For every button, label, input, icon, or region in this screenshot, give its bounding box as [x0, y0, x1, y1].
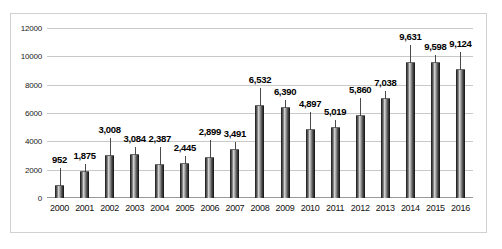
bar-2015[interactable]: [431, 62, 440, 198]
bar-2004[interactable]: [155, 164, 164, 198]
bar-2007[interactable]: [230, 149, 239, 198]
data-label-2002: 3,008: [98, 124, 120, 135]
leader-line-2012: [360, 98, 361, 116]
leader-line-2015: [435, 55, 436, 63]
x-axis-label-2016: 2016: [451, 203, 470, 213]
bar-group-2001[interactable]: 1,8752001: [72, 28, 97, 198]
bar-group-2000[interactable]: 9522000: [47, 28, 72, 198]
y-axis-tick-4000: 4000: [25, 137, 42, 146]
x-axis-label-2000: 2000: [50, 203, 69, 213]
x-axis-label-2011: 2011: [326, 203, 344, 213]
bar-2013[interactable]: [381, 98, 390, 198]
bar-group-2006[interactable]: 2,8992006: [197, 28, 222, 198]
bar-2008[interactable]: [255, 105, 264, 198]
data-label-2016: 9,124: [449, 38, 471, 49]
x-axis-label-2002: 2002: [100, 203, 119, 213]
x-axis-label-2015: 2015: [426, 203, 445, 213]
x-axis-label-2012: 2012: [351, 203, 370, 213]
bar-2006[interactable]: [205, 157, 214, 198]
bar-group-2013[interactable]: 7,0382013: [373, 28, 398, 198]
data-label-2003: 3,084: [124, 133, 146, 144]
bar-group-2014[interactable]: 9,6312014: [398, 28, 423, 198]
y-axis-tick-2000: 2000: [25, 165, 42, 174]
bar-2012[interactable]: [356, 115, 365, 198]
bar-group-2005[interactable]: 2,4452005: [172, 28, 197, 198]
x-axis-label-2003: 2003: [125, 203, 144, 213]
plot-area: 02000400060008000100001200095220001,8752…: [47, 28, 473, 198]
leader-line-2006: [210, 140, 211, 158]
data-label-2009: 6,390: [274, 86, 296, 97]
bar-group-2003[interactable]: 3,0842003: [122, 28, 147, 198]
leader-line-2014: [410, 45, 411, 63]
x-axis-label-2014: 2014: [401, 203, 420, 213]
bar-chart: 02000400060008000100001200095220001,8752…: [10, 13, 487, 233]
leader-line-2004: [160, 147, 161, 165]
x-axis-label-2005: 2005: [175, 203, 194, 213]
x-axis-label-2010: 2010: [301, 203, 320, 213]
data-label-2007: 3,491: [224, 128, 246, 139]
y-axis-tick-6000: 6000: [25, 109, 42, 118]
data-label-2005: 2,445: [174, 142, 196, 153]
bar-2003[interactable]: [130, 154, 139, 198]
leader-line-2008: [260, 88, 261, 106]
bar-2010[interactable]: [306, 129, 315, 198]
bar-2005[interactable]: [180, 163, 189, 198]
bar-2001[interactable]: [80, 171, 89, 198]
data-label-2001: 1,875: [73, 150, 95, 161]
leader-line-2005: [185, 156, 186, 164]
data-label-2013: 7,038: [374, 77, 396, 88]
leader-line-2002: [110, 138, 111, 156]
bar-group-2002[interactable]: 3,0082002: [97, 28, 122, 198]
bar-group-2009[interactable]: 6,3902009: [273, 28, 298, 198]
x-axis-label-2013: 2013: [376, 203, 395, 213]
leader-line-2001: [85, 164, 86, 172]
data-label-2008: 6,532: [249, 74, 271, 85]
bar-2000[interactable]: [55, 185, 64, 198]
leader-line-2007: [235, 142, 236, 150]
data-label-2010: 4,897: [299, 98, 321, 109]
x-axis-label-2001: 2001: [75, 203, 94, 213]
y-axis-tick-8000: 8000: [25, 80, 42, 89]
data-label-2004: 2,387: [149, 133, 171, 144]
bar-group-2007[interactable]: 3,4912007: [222, 28, 247, 198]
data-label-2011: 5,019: [324, 106, 346, 117]
leader-line-2009: [285, 100, 286, 108]
leader-line-2000: [60, 168, 61, 186]
bar-group-2012[interactable]: 5,8602012: [348, 28, 373, 198]
leader-line-2016: [460, 52, 461, 70]
bar-group-2010[interactable]: 4,8972010: [298, 28, 323, 198]
bar-2009[interactable]: [281, 107, 290, 198]
leader-line-2010: [310, 112, 311, 130]
bar-2016[interactable]: [456, 69, 465, 198]
data-label-2000: 952: [52, 154, 67, 165]
x-axis-label-2009: 2009: [276, 203, 295, 213]
bar-group-2016[interactable]: 9,1242016: [448, 28, 473, 198]
data-label-2012: 5,860: [349, 84, 371, 95]
data-label-2015: 9,598: [424, 41, 446, 52]
bar-group-2008[interactable]: 6,5322008: [247, 28, 272, 198]
x-axis-label-2006: 2006: [200, 203, 219, 213]
x-axis-label-2007: 2007: [226, 203, 245, 213]
bar-2011[interactable]: [331, 127, 340, 198]
bar-group-2015[interactable]: 9,5982015: [423, 28, 448, 198]
leader-line-2003: [135, 147, 136, 155]
data-label-2014: 9,631: [399, 31, 421, 42]
y-axis-tick-0: 0: [38, 194, 42, 203]
bar-2002[interactable]: [105, 155, 114, 198]
bar-group-2004[interactable]: 2,3872004: [147, 28, 172, 198]
x-axis-label-2004: 2004: [150, 203, 169, 213]
leader-line-2013: [385, 91, 386, 99]
leader-line-2011: [335, 120, 336, 128]
bar-2014[interactable]: [406, 62, 415, 198]
y-axis-tick-12000: 12000: [21, 24, 42, 33]
x-axis-label-2008: 2008: [251, 203, 270, 213]
data-label-2006: 2,899: [199, 126, 221, 137]
y-axis-tick-10000: 10000: [21, 52, 42, 61]
bar-group-2011[interactable]: 5,0192011: [323, 28, 348, 198]
